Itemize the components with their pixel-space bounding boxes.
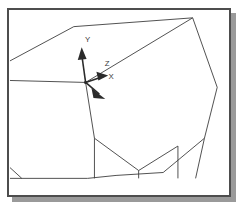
edge-bottom-left-notch [10, 168, 22, 179]
viewport-frame[interactable]: Y Z X [7, 8, 231, 197]
x-axis-arrow [86, 82, 106, 99]
axis-triad[interactable]: Y Z X [78, 35, 115, 99]
edge-origin-to-left [10, 80, 86, 82]
model-wireframe [10, 18, 217, 179]
triad-origin-point [84, 81, 87, 84]
x-axis-label: X [109, 72, 115, 81]
edge-valley-left [94, 138, 138, 170]
y-axis-label: Y [85, 35, 91, 44]
model-outline [10, 18, 217, 179]
edge-apex-to-origin [86, 18, 193, 83]
y-axis-arrow [78, 47, 87, 82]
screenshot-root: Y Z X [0, 0, 241, 210]
z-axis-arrow [86, 72, 109, 83]
edge-valley-right [139, 146, 178, 170]
z-axis-label: Z [105, 59, 110, 68]
viewport-canvas[interactable]: Y Z X [9, 10, 229, 195]
